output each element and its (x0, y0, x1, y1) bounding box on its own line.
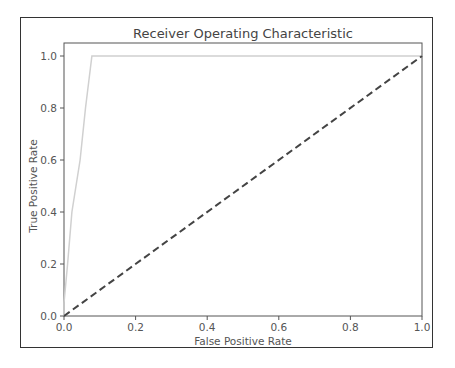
x-tick-label: 0.6 (270, 321, 287, 333)
x-axis-label: False Positive Rate (194, 335, 292, 347)
plot-area (64, 43, 422, 316)
y-tick-label: 0.6 (40, 154, 57, 166)
x-tick-label: 0.4 (199, 321, 216, 333)
y-tick-label: 1.0 (40, 50, 57, 62)
diagonal-reference-line (64, 56, 422, 316)
y-tick-label: 0.8 (40, 102, 57, 114)
y-axis-label: True Positive Rate (27, 139, 39, 234)
x-tick-label: 1.0 (414, 321, 431, 333)
chart-title: Receiver Operating Characteristic (133, 26, 353, 41)
y-axis-ticks: 0.00.20.40.60.81.0 (40, 50, 64, 322)
x-tick-label: 0.2 (127, 321, 144, 333)
y-tick-label: 0.4 (40, 206, 57, 218)
y-tick-label: 0.2 (40, 258, 57, 270)
series-group (64, 56, 422, 316)
x-tick-label: 0.8 (342, 321, 359, 333)
x-tick-label: 0.0 (56, 321, 73, 333)
roc-chart: Receiver Operating Characteristic 0.00.2… (0, 0, 455, 368)
y-tick-label: 0.0 (40, 310, 57, 322)
x-axis-ticks: 0.00.20.40.60.81.0 (56, 316, 431, 333)
